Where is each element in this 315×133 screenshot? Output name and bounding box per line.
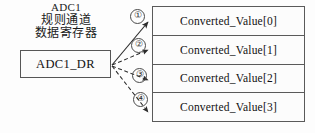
source-register-caption: ADC1 规则通道 数据寄存器	[20, 1, 112, 40]
step-marker-4: ④	[133, 92, 148, 107]
table-row: Converted_Value[2]	[153, 65, 304, 94]
converted-value-3-label: Converted_Value[3]	[180, 101, 277, 113]
table-row: Converted_Value[1]	[153, 36, 304, 65]
table-row: Converted_Value[3]	[153, 93, 304, 121]
adc1-dr-register-box: ADC1_DR	[20, 50, 111, 78]
step-marker-3: ③	[132, 68, 147, 83]
step-marker-2: ②	[131, 38, 146, 53]
arrow-to-value-1	[112, 50, 148, 65]
table-row: Converted_Value[0]	[153, 7, 304, 36]
caption-line-data-register: 数据寄存器	[20, 27, 112, 40]
adc1-dr-label: ADC1_DR	[36, 57, 95, 72]
step-marker-1: ①	[130, 9, 145, 24]
converted-value-2-label: Converted_Value[2]	[180, 72, 277, 84]
converted-value-0-label: Converted_Value[0]	[180, 15, 277, 27]
converted-value-1-label: Converted_Value[1]	[180, 44, 277, 56]
converted-value-buffer-table: Converted_Value[0] Converted_Value[1] Co…	[152, 6, 305, 122]
adc-dma-transfer-diagram: ADC1 规则通道 数据寄存器 ADC1_DR ① ② ③ ④ Converte…	[0, 0, 315, 133]
